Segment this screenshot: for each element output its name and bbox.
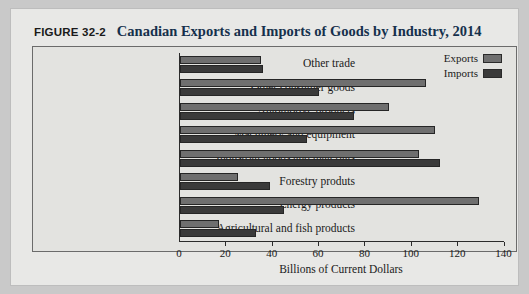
x-tick-140 [504, 242, 505, 246]
bar-imports [180, 65, 263, 73]
bar-imports [180, 206, 284, 214]
bar-group: Forestry produts [33, 171, 505, 195]
bar-exports [180, 79, 426, 87]
bar-exports [180, 126, 435, 134]
bar-group: Other consumer goods [33, 77, 505, 101]
x-axis-title: Billions of Current Dollars [279, 263, 403, 275]
category-label: Other trade [303, 57, 355, 69]
x-tick-label-60: 60 [313, 247, 324, 259]
figure-number: FIGURE 32-2 [34, 26, 106, 38]
bar-exports [180, 173, 238, 181]
bar-imports [180, 135, 307, 143]
x-axis-line [179, 241, 504, 242]
bar-group: Other trade [33, 53, 505, 77]
plot-frame: Exports Imports Other tradeOther consume… [32, 46, 517, 252]
x-tick-label-140: 140 [495, 247, 512, 259]
bar-imports [180, 112, 354, 120]
x-tick-80 [364, 242, 365, 246]
bar-group: Machinery and equipment [33, 124, 505, 148]
bar-group: Energy products [33, 194, 505, 218]
bar-exports [180, 56, 261, 64]
x-tick-60 [318, 242, 319, 246]
figure-container: FIGURE 32-2Canadian Exports and Imports … [0, 0, 529, 294]
bar-exports [180, 220, 219, 228]
x-tick-100 [411, 242, 412, 246]
bar-exports [180, 197, 479, 205]
figure-title: Canadian Exports and Imports of Goods by… [117, 23, 482, 39]
x-tick-label-80: 80 [359, 247, 370, 259]
figure-heading: FIGURE 32-2Canadian Exports and Imports … [34, 22, 481, 40]
bar-imports [180, 159, 440, 167]
x-tick-label-40: 40 [266, 247, 277, 259]
bar-exports [180, 150, 419, 158]
bar-imports [180, 182, 270, 190]
category-label: Forestry produts [279, 175, 355, 187]
x-tick-label-20: 20 [220, 247, 231, 259]
bar-exports [180, 103, 389, 111]
bar-imports [180, 88, 319, 96]
x-tick-120 [457, 242, 458, 246]
bar-group: Industrial goods and materials [33, 147, 505, 171]
x-tick-20 [225, 242, 226, 246]
bar-imports [180, 229, 256, 237]
bar-group: Automotive products [33, 100, 505, 124]
x-tick-label-0: 0 [176, 247, 182, 259]
x-tick-label-100: 100 [403, 247, 420, 259]
x-tick-label-120: 120 [449, 247, 466, 259]
plot-area: Other tradeOther consumer goodsAutomotiv… [179, 53, 505, 246]
figure-panel: FIGURE 32-2Canadian Exports and Imports … [10, 8, 519, 286]
bar-group: Agricultural and fish products [33, 218, 505, 242]
x-tick-40 [272, 242, 273, 246]
